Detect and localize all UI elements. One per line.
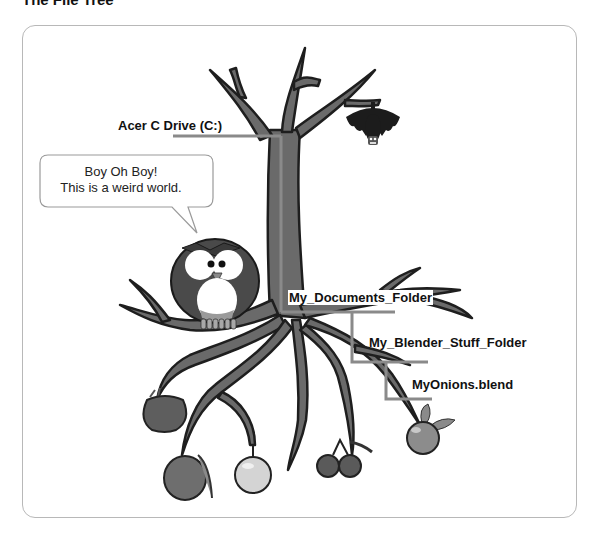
speech-line-1: Boy Oh Boy! — [42, 164, 200, 180]
bat-icon — [346, 102, 400, 145]
label-file: MyOnions.blend — [412, 377, 513, 392]
file-tree-illustration — [0, 0, 600, 540]
speech-bubble-text: Boy Oh Boy! This is a weird world. — [42, 164, 200, 196]
speech-line-2: This is a weird world. — [42, 180, 200, 196]
peach-icon — [164, 455, 212, 500]
label-blender-folder: My_Blender_Stuff_Folder — [369, 335, 526, 350]
green-apple-icon — [235, 445, 271, 493]
label-drive: Acer C Drive (C:) — [118, 118, 222, 133]
label-documents-folder: My_Documents_Folder — [288, 290, 433, 305]
cherries-icon — [317, 440, 372, 477]
red-apple-icon — [143, 388, 186, 432]
